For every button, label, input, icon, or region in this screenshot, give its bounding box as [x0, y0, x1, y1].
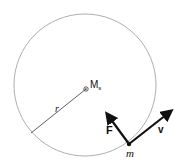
central-mass-subscript: s: [98, 85, 101, 91]
radius-label: r: [55, 104, 59, 114]
orbiting-mass-dot: [127, 142, 131, 146]
force-label: F: [106, 125, 113, 136]
velocity-label: v: [158, 125, 164, 135]
orbiting-mass-label: m: [126, 148, 134, 159]
central-mass-label: Ms: [90, 80, 101, 91]
velocity-arrow: [129, 111, 171, 144]
orbit-circle: [14, 14, 156, 156]
central-mass-center: [85, 88, 87, 90]
